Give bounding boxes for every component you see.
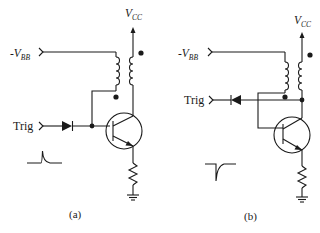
trig-terminal-icon (39, 122, 43, 130)
panel-a: VCC -VBB Trig (10, 7, 144, 221)
negative-pulse-icon (205, 164, 236, 181)
polarity-dot-primary-b (282, 94, 287, 99)
resistor-icon (129, 163, 137, 185)
trig-label-b: Trig (184, 93, 204, 107)
panel-b: VCC -VBB Trig (178, 14, 313, 223)
transformer-secondary-coil-b (299, 54, 302, 118)
trig-label-a: Trig (13, 119, 33, 133)
junction-dot (90, 124, 95, 129)
circuit-diagram: VCC -VBB Trig (0, 0, 320, 233)
transformer-primary-coil-b (285, 52, 289, 93)
trig-terminal-icon (209, 96, 213, 104)
vcc-label-a: VCC (125, 7, 143, 22)
caption-b: (b) (244, 210, 257, 223)
polarity-dot-secondary-a (138, 50, 143, 55)
vcc-label-b: VCC (294, 14, 312, 29)
ground-icon (127, 195, 139, 200)
polarity-dot-secondary-b (307, 52, 312, 57)
junction-dot (300, 98, 305, 103)
vcc-arrow-icon (300, 32, 305, 54)
transformer-primary-coil-a (116, 52, 120, 91)
input-terminal-icon (208, 48, 212, 56)
npn-transistor-icon-b (274, 117, 310, 153)
resistor-icon (298, 166, 306, 188)
polarity-dot-primary-a (113, 94, 118, 99)
vbb-label-b: -VBB (178, 47, 198, 62)
diode-icon (62, 121, 73, 131)
npn-transistor-icon-a (106, 113, 142, 149)
ground-icon (296, 197, 308, 202)
input-terminal-icon (39, 48, 43, 56)
diode-icon (231, 95, 241, 105)
positive-pulse-icon (27, 151, 62, 163)
vcc-arrow-icon (131, 27, 136, 52)
vbb-label-a: -VBB (10, 47, 30, 62)
caption-a: (a) (69, 208, 82, 221)
transformer-secondary-coil-a (130, 52, 134, 116)
